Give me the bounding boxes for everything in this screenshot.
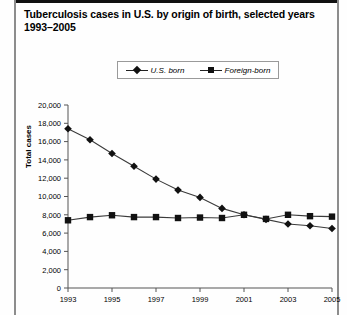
data-point-marker [285,212,291,218]
chart-canvas: 02,0004,0006,0008,00010,00012,00014,0001… [0,0,347,315]
x-tick-label: 2001 [236,295,253,304]
data-point-marker [196,194,204,202]
data-point-marker [218,205,226,213]
data-point-marker [130,163,138,171]
y-tick-label: 12,000 [38,174,61,183]
data-point-marker [108,150,116,158]
x-tick-label: 1997 [148,295,165,304]
data-point-marker [328,225,336,233]
y-tick-label: 16,000 [38,137,61,146]
data-point-marker [241,212,247,218]
data-point-marker [131,214,137,220]
y-tick-label: 6,000 [42,229,61,238]
y-tick-label: 20,000 [38,101,61,110]
data-point-marker [307,213,313,219]
series-line-us-born [68,129,332,229]
data-point-marker [329,213,335,219]
figure-panel: Tuberculosis cases in U.S. by origin of … [0,0,347,315]
y-tick-label: 14,000 [38,156,61,165]
data-point-marker [174,186,182,194]
x-tick-label: 1995 [104,295,121,304]
data-point-marker [64,125,72,133]
data-point-marker [152,175,160,183]
data-point-marker [263,216,269,222]
data-point-marker [86,136,94,144]
data-point-marker [175,215,181,221]
x-tick-label: 2003 [280,295,297,304]
data-point-marker [65,217,71,223]
x-tick-label: 2005 [324,295,341,304]
y-tick-label: 2,000 [42,266,61,275]
data-point-marker [306,222,314,230]
y-tick-label: 4,000 [42,247,61,256]
data-point-marker [197,214,203,220]
plot-area: 02,0004,0006,0008,00010,00012,00014,0001… [0,0,347,315]
data-point-marker [109,212,115,218]
y-tick-label: 8,000 [42,211,61,220]
x-tick-label: 1999 [192,295,209,304]
x-tick-label: 1993 [60,295,77,304]
data-point-marker [153,214,159,220]
data-point-marker [87,214,93,220]
y-tick-label: 10,000 [38,192,61,201]
y-tick-label: 0 [57,284,61,293]
data-point-marker [219,215,225,221]
data-point-marker [284,220,292,228]
y-tick-label: 18,000 [38,119,61,128]
